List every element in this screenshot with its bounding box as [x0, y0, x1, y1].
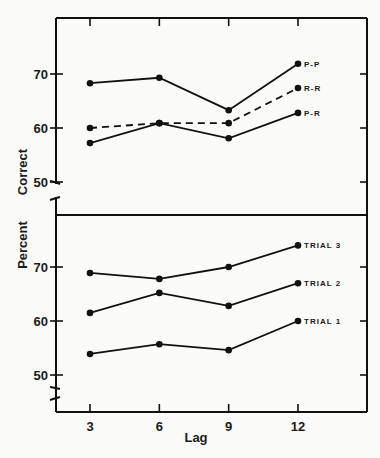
data-point — [156, 290, 163, 297]
data-point — [87, 125, 94, 132]
series-trial-3: TRIAL 3 — [87, 241, 341, 282]
x-tick-label: 3 — [86, 419, 93, 434]
data-point — [87, 80, 94, 87]
y-axis-title-percent: Percent — [15, 220, 30, 268]
data-point — [225, 120, 232, 127]
data-point — [295, 280, 302, 287]
data-point — [156, 74, 163, 81]
series-trial-2: TRIAL 2 — [87, 279, 341, 316]
y-tick-label: 50 — [34, 175, 48, 190]
data-point — [156, 341, 163, 348]
series-r-r: R-R — [87, 84, 322, 131]
series-label: TRIAL 2 — [304, 279, 341, 288]
series-label: P-R — [304, 109, 321, 118]
data-point — [295, 110, 302, 117]
data-point — [225, 135, 232, 142]
series-p-p: P-P — [87, 60, 321, 114]
series-label: P-P — [304, 60, 320, 69]
data-point — [87, 270, 94, 277]
data-point — [87, 310, 94, 317]
y-tick-label: 70 — [34, 260, 48, 275]
y-tick-label: 50 — [34, 368, 48, 383]
data-point — [87, 140, 94, 147]
series-trial-1: TRIAL 1 — [87, 317, 341, 357]
data-point — [295, 85, 302, 92]
data-point — [225, 107, 232, 114]
series-label: TRIAL 1 — [304, 317, 341, 326]
x-axis-title: Lag — [184, 430, 207, 445]
data-point — [225, 264, 232, 271]
y-tick-label: 60 — [34, 314, 48, 329]
series-p-r: P-R — [87, 109, 321, 147]
lag-percent-correct-chart: 36912 506070506070 Lag Correct Percent P… — [0, 0, 380, 458]
series-label: TRIAL 3 — [304, 241, 341, 250]
data-point — [225, 347, 232, 354]
x-tick-label: 12 — [291, 419, 305, 434]
data-point — [295, 318, 302, 325]
y-axis-tick-labels: 506070506070 — [34, 67, 48, 383]
data-point — [295, 242, 302, 249]
y-axis-ticks — [50, 74, 367, 375]
data-point — [225, 303, 232, 310]
data-point — [295, 60, 302, 67]
x-tick-label: 9 — [225, 419, 232, 434]
series-label: R-R — [304, 84, 321, 93]
y-axis-title-correct: Correct — [15, 148, 30, 195]
data-point — [156, 120, 163, 127]
data-point — [156, 276, 163, 283]
data-point — [87, 351, 94, 358]
y-tick-label: 60 — [34, 121, 48, 136]
series-layer: P-PR-RP-RTRIAL 3TRIAL 2TRIAL 1 — [87, 60, 341, 358]
y-tick-label: 70 — [34, 67, 48, 82]
x-tick-label: 6 — [156, 419, 163, 434]
